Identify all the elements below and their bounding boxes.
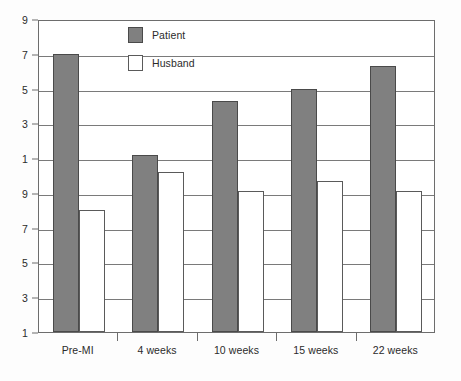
y-axis-tick-label: 3 [22, 118, 28, 130]
legend-item-patient: Patient [128, 26, 195, 43]
bar-husband-4 [396, 191, 422, 332]
y-axis-tick-label: 5 [22, 84, 28, 96]
x-axis-tick-label: 4 weeks [137, 344, 176, 356]
legend-label-patient: Patient [152, 29, 185, 41]
y-axis-tick-label: 1 [22, 327, 28, 339]
bar-patient-1 [132, 155, 158, 332]
bar-husband-3 [317, 181, 343, 332]
bar-husband-2 [238, 191, 264, 332]
y-axis-tick-label: 7 [22, 49, 28, 61]
bar-husband-0 [79, 210, 105, 332]
y-axis-tick-label: 9 [22, 14, 28, 26]
bar-patient-0 [53, 54, 79, 332]
x-axis-tick-mark [197, 333, 198, 341]
bar-patient-2 [212, 101, 238, 332]
x-axis-tick-mark [117, 333, 118, 341]
plot-area [38, 20, 435, 333]
x-axis-tick-label: 15 weeks [293, 344, 338, 356]
y-axis-tick-label: 9 [22, 188, 28, 200]
y-axis-tick-label: 7 [22, 223, 28, 235]
bar-patient-3 [291, 89, 317, 332]
y-axis: 9753197531 [0, 0, 38, 381]
x-axis-tick-mark [276, 333, 277, 341]
x-axis-tick-mark [356, 333, 357, 341]
bar-chart: 9753197531 Pre-MI4 weeks10 weeks15 weeks… [0, 0, 461, 381]
y-axis-tick-label: 3 [22, 292, 28, 304]
bar-husband-1 [158, 172, 184, 332]
legend-item-husband: Husband [128, 54, 195, 71]
bar-patient-4 [370, 66, 396, 332]
y-axis-tick-label: 5 [22, 257, 28, 269]
legend-label-husband: Husband [152, 57, 195, 69]
x-axis-tick-label: Pre-MI [62, 344, 94, 356]
legend-swatch-husband-icon [128, 55, 143, 71]
legend-swatch-patient-icon [128, 27, 143, 43]
x-axis-tick-label: 22 weeks [373, 344, 418, 356]
x-axis-tick-label: 10 weeks [214, 344, 259, 356]
gridline [39, 56, 434, 57]
chart-legend: Patient Husband [128, 26, 195, 82]
y-axis-tick-label: 1 [22, 153, 28, 165]
x-axis: Pre-MI4 weeks10 weeks15 weeks22 weeks [38, 344, 435, 374]
